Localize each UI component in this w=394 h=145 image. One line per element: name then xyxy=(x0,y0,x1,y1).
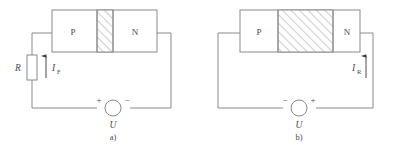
source-label-a: U xyxy=(110,120,118,130)
caption-b: b) xyxy=(295,132,302,142)
depletion-region-a xyxy=(97,10,113,52)
n-region-label-a: N xyxy=(132,27,139,37)
current-subscript-a: F xyxy=(57,68,61,75)
wire-left-top-a xyxy=(32,33,52,55)
figure-canvas: P N + − P N xyxy=(0,0,394,145)
current-label-a: I F xyxy=(51,63,61,75)
source-minus-sign-b: − xyxy=(282,95,287,105)
resistor-symbol-a xyxy=(27,55,37,80)
resistor-label-a: R xyxy=(14,63,21,73)
current-symbol-a: I xyxy=(51,63,56,73)
voltage-source-a xyxy=(105,100,121,116)
current-subscript-b: R xyxy=(357,68,362,75)
diagram-a: P N + − xyxy=(27,10,171,116)
depletion-region-b xyxy=(278,10,333,52)
n-region-label-b: N xyxy=(344,27,351,37)
source-label-b: U xyxy=(296,120,304,130)
voltage-source-b xyxy=(291,100,307,116)
caption-a: a) xyxy=(110,132,117,142)
wire-left-bottom-a xyxy=(32,80,97,108)
source-plus-sign-b: + xyxy=(310,95,315,105)
circuit-diagram-svg: P N + − P N xyxy=(0,0,394,145)
source-minus-sign-a: − xyxy=(124,95,129,105)
current-label-b: I R xyxy=(351,63,362,75)
source-plus-sign-a: + xyxy=(96,95,101,105)
current-symbol-b: I xyxy=(351,63,356,73)
p-region-label-b: P xyxy=(256,27,261,37)
p-region-label-a: P xyxy=(70,27,75,37)
diagram-b: P N − + xyxy=(218,10,373,116)
